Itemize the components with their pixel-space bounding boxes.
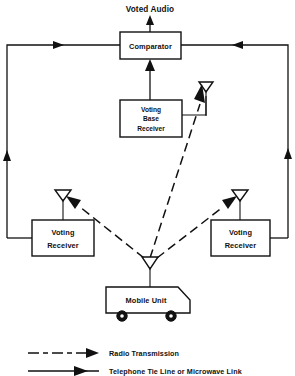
voting-receiver-right-label-line1: Voting	[229, 228, 252, 237]
comparator-label: Comparator	[129, 42, 172, 51]
mobile-unit-label: Mobile Unit	[126, 296, 167, 305]
voting-receiver-left-label-line1: Voting	[51, 228, 74, 237]
comparator-node: Comparator	[120, 32, 181, 59]
voting-system-diagram: Voted Audio Comparator	[0, 0, 295, 376]
voting-receiver-left-label-line2: Receiver	[47, 241, 79, 250]
diagram-canvas: Voted Audio Comparator	[0, 0, 295, 376]
left-tie-line-path	[3, 41, 120, 238]
right-tie-line-path	[181, 41, 292, 238]
mobile-unit-node: Mobile Unit	[106, 287, 190, 321]
voting-base-receiver-label-line2: Base	[143, 115, 159, 122]
legend-item-radio-transmission: Radio Transmission	[28, 348, 179, 358]
antenna-icon-mobile	[142, 257, 158, 287]
voting-receiver-right-node: Voting Receiver	[211, 220, 270, 256]
legend-label-radio-transmission: Radio Transmission	[109, 349, 179, 358]
voting-receiver-left-node: Voting Receiver	[32, 220, 94, 256]
mobile-unit-wheel-rear	[117, 311, 127, 321]
voting-base-receiver-node: Voting Base Receiver	[120, 59, 182, 137]
antenna-icon-right	[232, 190, 248, 220]
legend: Radio Transmission Telephone Tie Line or…	[28, 348, 242, 376]
legend-label-telephone-tie-line: Telephone Tie Line or Microwave Link	[109, 367, 242, 376]
antenna-icon-left	[55, 190, 71, 220]
voted-audio-output-arrow	[146, 15, 154, 32]
mobile-unit-wheel-front	[166, 311, 176, 321]
voting-receiver-left-box	[32, 220, 94, 256]
voting-receiver-right-box	[211, 220, 270, 256]
legend-item-telephone-tie-line: Telephone Tie Line or Microwave Link	[28, 366, 242, 376]
page-title: Voted Audio	[126, 5, 174, 14]
voting-base-receiver-label-line1: Voting	[141, 106, 161, 114]
voting-base-receiver-label-line3: Receiver	[137, 125, 165, 132]
voting-receiver-right-label-line2: Receiver	[225, 241, 257, 250]
